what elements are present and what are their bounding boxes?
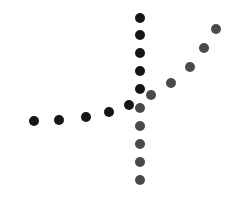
- dot-marker: [135, 157, 145, 167]
- dot-marker: [135, 13, 145, 23]
- dot-marker: [124, 100, 134, 110]
- dot-marker: [135, 103, 145, 113]
- dot-marker: [146, 90, 156, 100]
- dot-marker: [211, 24, 221, 34]
- dot-marker: [135, 48, 145, 58]
- dot-marker: [199, 43, 209, 53]
- dot-diagram: [0, 0, 236, 197]
- dot-marker: [135, 66, 145, 76]
- dot-marker: [135, 30, 145, 40]
- dot-marker: [104, 107, 114, 117]
- dot-marker: [135, 84, 145, 94]
- dot-marker: [185, 62, 195, 72]
- dot-marker: [29, 116, 39, 126]
- dot-marker: [135, 139, 145, 149]
- dot-marker: [166, 78, 176, 88]
- dot-marker: [54, 115, 64, 125]
- dot-marker: [81, 112, 91, 122]
- dot-marker: [135, 175, 145, 185]
- dot-marker: [135, 121, 145, 131]
